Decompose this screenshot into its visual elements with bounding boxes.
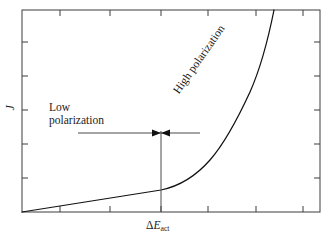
low-polarization-label: Low polarization <box>49 101 104 127</box>
x-axis-ticks-bottom <box>60 206 303 212</box>
x-axis-label: ΔEact <box>146 219 170 232</box>
y-axis-ticks-left <box>22 42 28 178</box>
x-axis-ticks-top <box>60 10 303 16</box>
low-polarization-line1: Low <box>49 101 104 114</box>
arrow-head-left-icon <box>152 130 161 137</box>
y-axis-label: J <box>4 105 18 110</box>
x-axis-subscript: act <box>160 224 169 233</box>
arrow-head-right-icon <box>161 130 170 137</box>
figure-container: Low polarization High polarization J ΔEa… <box>0 0 335 243</box>
low-polarization-line2: polarization <box>49 114 104 127</box>
y-axis-ticks-right <box>314 42 320 178</box>
